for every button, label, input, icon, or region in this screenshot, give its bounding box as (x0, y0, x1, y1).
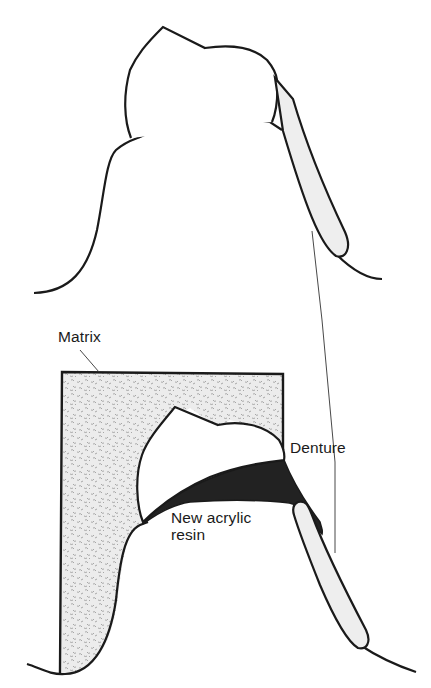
top-denture-tooth (125, 27, 277, 138)
bottom-clasp (293, 502, 368, 649)
new-acrylic-resin-label: New acrylic resin (171, 509, 291, 543)
top-clasp (275, 78, 348, 256)
denture-label: Denture (290, 439, 346, 456)
top-view-denture-on-ridge (34, 27, 382, 293)
resin-label-line2: resin (171, 526, 291, 543)
matrix-label: Matrix (58, 328, 101, 345)
resin-label-line1: New acrylic (171, 509, 291, 526)
top-ridge-outline (34, 121, 282, 293)
bottom-ridge-right-outline (360, 645, 416, 672)
matrix-leader-line (80, 350, 99, 372)
top-ridge-right-outline (336, 254, 382, 279)
denture-leader-line (312, 231, 335, 553)
